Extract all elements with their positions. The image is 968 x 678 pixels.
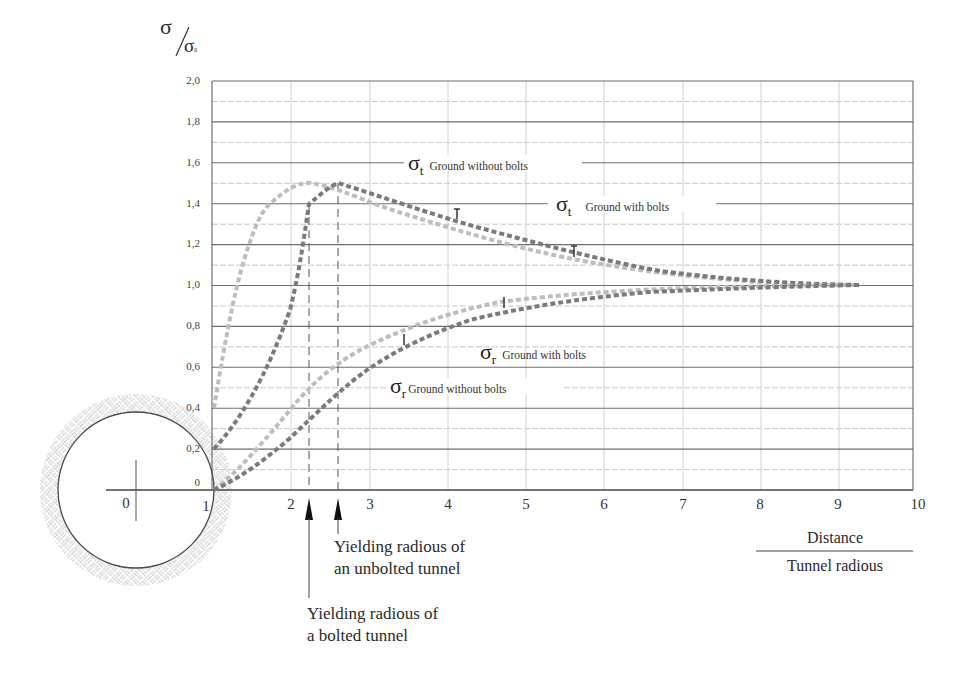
y-tick: 0,2	[160, 443, 200, 454]
x-tick: 10	[906, 497, 930, 512]
curve-sigma-t-without-bolts	[214, 183, 859, 408]
curves	[214, 183, 859, 490]
x-tick-origin: 0	[116, 496, 136, 511]
x-tick: 1	[196, 499, 216, 514]
y-tick: 0,8	[160, 320, 200, 331]
xlabel-numerator: Distance	[756, 530, 914, 546]
y-tick: 0	[160, 477, 200, 488]
x-tick: 4	[438, 497, 458, 512]
x-tick: 5	[516, 497, 536, 512]
y-tick: 1,0	[160, 279, 200, 290]
curve-sigma-t-with-bolts	[214, 183, 859, 449]
bolted-arrow-icon	[305, 498, 313, 520]
annotation-bolted-yield: Yielding radious of a bolted tunnel	[307, 603, 438, 647]
y-tick: 0,4	[160, 402, 200, 413]
y-tick: 1,2	[160, 238, 200, 249]
x-tick: 2	[281, 497, 301, 512]
x-tick: 3	[360, 497, 380, 512]
y-tick: 1,6	[160, 157, 200, 168]
difference-markers	[404, 209, 577, 345]
x-tick: 8	[750, 497, 770, 512]
y-tick: 2,0	[160, 75, 200, 86]
label-sigma-r-without-bolts: σrGround without bolts	[390, 375, 507, 400]
label-sigma-t-with-bolts: σtGround with bolts	[556, 193, 669, 218]
y-tick: 1,4	[160, 198, 200, 209]
label-sigma-t-without-bolts: σtGround without bolts	[408, 152, 528, 177]
x-tick: 9	[828, 497, 848, 512]
x-tick: 7	[673, 497, 693, 512]
annotation-unbolted-yield: Yielding radious of an unbolted tunnel	[334, 536, 465, 580]
x-tick: 6	[594, 497, 614, 512]
y-tick: 1,8	[160, 116, 200, 127]
xlabel-denominator: Tunnel radious	[756, 558, 914, 574]
y-tick: 0,6	[160, 361, 200, 372]
unbolted-arrow-icon	[334, 498, 342, 520]
ylabel-numerator: σ	[160, 16, 172, 38]
ylabel-denominator: σ0	[184, 36, 197, 55]
label-sigma-r-with-bolts: σrGround with bolts	[480, 341, 586, 366]
